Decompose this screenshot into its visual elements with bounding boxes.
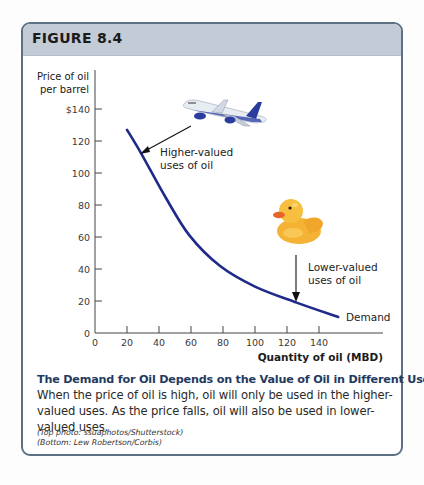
x-tick-label: 20 — [121, 337, 133, 348]
lower-valued-label-line2: uses of oil — [308, 274, 361, 286]
y-tick-label: $140 — [66, 104, 90, 115]
higher-valued-label-line2: uses of oil — [160, 159, 213, 171]
y-axis-ticks: 020406080100120$140 — [66, 104, 102, 339]
x-axis-title: Quantity of oil (MBD) — [258, 351, 383, 363]
y-tick-label: 60 — [78, 232, 90, 243]
y-tick-label: 0 — [84, 328, 90, 339]
demand-label: Demand — [346, 311, 391, 323]
x-tick-label: 60 — [185, 337, 197, 348]
x-axis-ticks: 020406080100120140 — [92, 326, 328, 348]
higher-valued-label-line1: Higher-valued — [160, 146, 233, 158]
y-axis-title-line2: per barrel — [40, 84, 89, 95]
y-tick-label: 80 — [78, 200, 90, 211]
x-tick-label: 0 — [92, 337, 98, 348]
y-tick-label: 100 — [72, 168, 90, 179]
photo-credits: (Top photo: ssuaphotos/Shutterstock) (Bo… — [37, 428, 183, 448]
caption-title: The Demand for Oil Depends on the Value … — [37, 373, 397, 386]
higher-valued-arrowhead — [140, 146, 150, 154]
y-tick-label: 120 — [72, 136, 90, 147]
credit-bottom-photo: (Bottom: Lew Robertson/Corbis) — [37, 438, 183, 448]
figure-caption: The Demand for Oil Depends on the Value … — [37, 373, 397, 435]
rubber-duck-icon — [273, 199, 323, 244]
x-tick-label: 80 — [217, 337, 229, 348]
y-tick-label: 20 — [78, 296, 90, 307]
y-axis-title-line1: Price of oil — [37, 71, 89, 82]
x-tick-label: 100 — [246, 337, 264, 348]
airplane-icon — [183, 100, 266, 126]
x-tick-label: 120 — [278, 337, 296, 348]
lower-valued-label-line1: Lower-valued — [308, 261, 378, 273]
x-tick-label: 40 — [153, 337, 165, 348]
demand-chart: Price of oil per barrel 020406080100120$… — [0, 0, 424, 370]
x-tick-label: 140 — [310, 337, 328, 348]
credit-top-photo: (Top photo: ssuaphotos/Shutterstock) — [37, 428, 183, 438]
y-tick-label: 40 — [78, 264, 90, 275]
